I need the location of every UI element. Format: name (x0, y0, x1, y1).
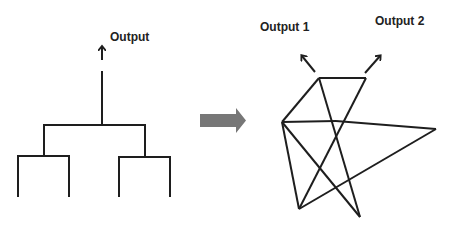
tree-output-label: Output (110, 30, 149, 44)
tree-diagram: Output (17, 30, 171, 197)
network-diagram: Output 1 Output 2 (260, 14, 436, 217)
edge-left-bottomright (282, 122, 360, 217)
edge-left-bottomleft (282, 122, 299, 209)
edge-left-center (282, 121, 336, 122)
edge-center-right (336, 121, 436, 129)
network-output-1-label: Output 1 (260, 20, 310, 34)
network-output-1-arrow-icon (302, 56, 315, 72)
edge-topleft-bottomright (319, 78, 360, 217)
network-output-2-arrow-icon (365, 56, 380, 73)
edge-topleft-left (282, 78, 319, 122)
diagram-canvas: Output Output 1 Output 2 (0, 0, 454, 229)
network-output-2-label: Output 2 (375, 14, 425, 28)
transform-arrow-icon (200, 108, 246, 133)
